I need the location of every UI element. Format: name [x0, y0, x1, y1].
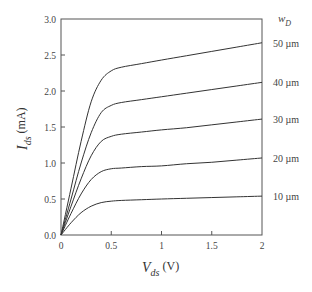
y-tick-label: 2.0	[44, 87, 56, 97]
legend-item: 20 µm	[273, 153, 299, 164]
y-tick-label: 2.5	[44, 51, 56, 61]
curves	[61, 43, 262, 235]
x-tick-label: 2	[260, 241, 265, 251]
legend: 10 µm20 µm30 µm40 µm50 µmwD	[273, 12, 299, 202]
legend-item: 40 µm	[273, 77, 299, 88]
y-axis-label: Ids(mA)	[14, 107, 33, 151]
y-tick-label: 0.0	[44, 231, 56, 241]
y-tick-label: 1.5	[44, 123, 56, 133]
legend-item: 30 µm	[273, 114, 299, 125]
axis-ticks: 00.511.520.00.51.01.52.02.53.0	[44, 15, 265, 252]
plot-frame	[61, 19, 262, 235]
axis-labels: Vds(V)Ids(mA)	[14, 107, 179, 278]
legend-item: 10 µm	[273, 191, 299, 202]
curve-20m	[61, 158, 262, 235]
curve-30m	[61, 119, 262, 235]
legend-item: 50 µm	[273, 38, 299, 49]
iv-chart: 00.511.520.00.51.01.52.02.53.0 10 µm20 µ…	[0, 0, 312, 292]
y-tick-label: 0.5	[44, 195, 56, 205]
curve-40m	[61, 82, 262, 235]
y-tick-label: 1.0	[44, 159, 56, 169]
legend-title: wD	[278, 12, 291, 28]
x-axis-label: Vds(V)	[142, 259, 179, 278]
x-tick-label: 0	[59, 241, 64, 251]
y-tick-label: 3.0	[44, 15, 56, 25]
plot-border	[61, 19, 262, 235]
x-tick-label: 0.5	[105, 241, 117, 251]
x-tick-label: 1	[159, 241, 164, 251]
curve-10m	[61, 196, 262, 235]
x-tick-label: 1.5	[206, 241, 218, 251]
